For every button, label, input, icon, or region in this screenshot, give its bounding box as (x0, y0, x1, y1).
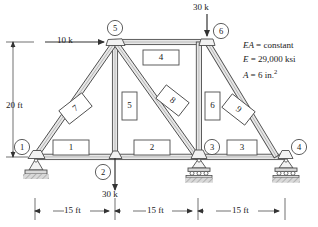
joint-4-gusset (278, 151, 293, 159)
load-label-30k-bottom: 30 k (102, 190, 118, 199)
node-6-label: 6 (213, 27, 229, 36)
node-3-label: 3 (204, 143, 220, 152)
member-5-label: 5 (122, 101, 137, 110)
member-5-bar (112, 42, 117, 157)
joint-1-gusset (28, 151, 45, 159)
node-1-label: 1 (14, 143, 30, 152)
member-1-label: 1 (53, 143, 89, 152)
load-label-30k-top: 30 k (193, 3, 209, 12)
node-5-label: 5 (107, 24, 123, 33)
property-EA-eq: = (256, 40, 261, 50)
dimension-label-span-1: 15 ft (64, 206, 81, 215)
joint-2-gusset (109, 151, 122, 159)
support-node-1-pin (23, 158, 49, 179)
support-node-4-roller (272, 158, 300, 183)
property-EA-value: constant (263, 40, 293, 50)
support-node-3-roller (185, 158, 213, 183)
property-E-value: 29,000 ksi (258, 54, 296, 64)
property-E: E = 29,000 ksi (243, 55, 296, 64)
load-label-10k: 10 k (57, 36, 73, 45)
member-4-bar (115, 39, 207, 44)
property-A-exponent: 2 (274, 68, 277, 75)
dimension-label-20ft: 20 ft (6, 101, 23, 110)
property-A-eq: = (251, 70, 256, 80)
truss-drawing-canvas (0, 0, 318, 227)
node-2-label: 2 (95, 168, 111, 177)
property-A-value: 6 in. (258, 70, 274, 80)
property-A-symbol: A (243, 70, 248, 80)
joint-6-gusset (199, 39, 215, 46)
dimension-label-span-2: 15 ft (147, 206, 164, 215)
member-6-bar (196, 42, 201, 157)
dimension-label-span-3: 15 ft (232, 206, 249, 215)
member-6-label: 6 (205, 101, 220, 110)
member-2-label: 2 (134, 143, 170, 152)
property-EA: EA = constant (243, 41, 293, 50)
property-E-symbol: E (243, 54, 249, 64)
node-4-label: 4 (291, 143, 307, 152)
member-3-label: 3 (227, 143, 257, 152)
joint-5-gusset (106, 39, 125, 46)
truss-diagram-figure: EA = constant E = 29,000 ksi A = 6 in.2 … (0, 0, 318, 227)
property-A: A = 6 in.2 (243, 69, 277, 80)
property-E-eq: = (251, 54, 256, 64)
member-4-label: 4 (143, 53, 179, 62)
property-EA-symbol: EA (243, 40, 254, 50)
